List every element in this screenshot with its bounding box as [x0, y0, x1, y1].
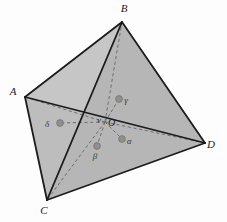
tetrahedron-diagram: BACDαβγδOν: [0, 0, 227, 222]
interior-point-label-O: O: [108, 117, 115, 128]
face-center-label-alpha: α: [127, 136, 132, 146]
interior-point-tick-label: ν: [97, 115, 101, 125]
face-center-label-beta: β: [92, 151, 98, 161]
marker-beta: [94, 143, 101, 150]
vertex-label-B: B: [121, 2, 128, 14]
marker-alpha: [119, 136, 126, 143]
tetrahedron-figure: BACDαβγδOν: [0, 0, 227, 222]
vertex-label-A: A: [9, 85, 17, 97]
face-center-label-gamma: γ: [124, 95, 128, 105]
vertex-label-C: C: [40, 204, 48, 216]
vertex-label-D: D: [206, 138, 215, 150]
marker-delta: [57, 120, 64, 127]
marker-gamma: [116, 96, 123, 103]
